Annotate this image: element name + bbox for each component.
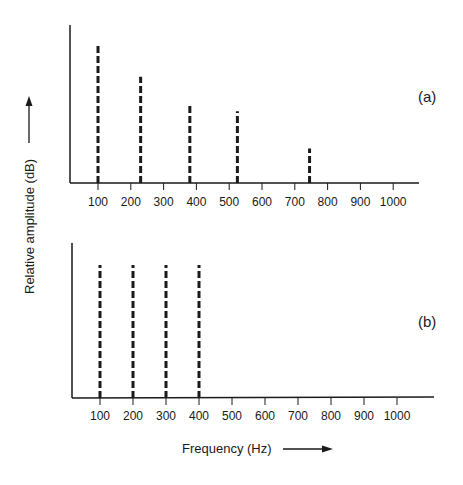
panel-b-x-axis <box>72 397 434 398</box>
panel-a-chart: 1002003004005006007008009001000 (a) <box>70 25 436 209</box>
x-axis-title: Frequency (Hz) <box>182 441 272 456</box>
right-arrow-icon <box>322 446 333 453</box>
x-tick-label: 800 <box>321 409 341 423</box>
panel-b-x-ticks: 1002003004005006007008009001000 <box>90 398 411 423</box>
x-tick-label: 100 <box>90 409 110 423</box>
x-tick-label: 200 <box>123 409 143 423</box>
x-tick-label: 800 <box>318 195 338 209</box>
panel-a-spectral-lines <box>98 45 310 183</box>
panel-b-chart: 1002003004005006007008009001000 (b) <box>72 243 436 423</box>
x-tick-label: 400 <box>189 409 209 423</box>
x-tick-label: 400 <box>186 195 206 209</box>
x-tick-label: 600 <box>252 195 272 209</box>
y-axis-title: Relative amplitude (dB) <box>22 159 37 294</box>
x-tick-label: 1000 <box>384 409 411 423</box>
x-tick-label: 300 <box>154 195 174 209</box>
x-tick-label: 200 <box>121 195 141 209</box>
x-tick-label: 600 <box>255 409 275 423</box>
x-tick-label: 300 <box>156 409 176 423</box>
x-tick-label: 900 <box>350 195 370 209</box>
panel-a-label: (a) <box>418 88 436 105</box>
y-axis-title-group: Relative amplitude (dB) <box>22 96 37 294</box>
panel-b-spectral-lines <box>100 265 199 398</box>
panel-a-x-ticks: 1002003004005006007008009001000 <box>88 183 407 209</box>
x-axis-title-group: Frequency (Hz) <box>182 441 333 456</box>
x-tick-label: 500 <box>222 409 242 423</box>
x-tick-label: 700 <box>288 409 308 423</box>
x-tick-label: 500 <box>219 195 239 209</box>
x-tick-label: 1000 <box>380 195 407 209</box>
spectrum-figure: 1002003004005006007008009001000 (a) 1002… <box>0 0 463 485</box>
x-tick-label: 900 <box>354 409 374 423</box>
x-tick-label: 100 <box>88 195 108 209</box>
up-arrow-icon <box>26 96 33 106</box>
x-tick-label: 700 <box>285 195 305 209</box>
panel-b-label: (b) <box>418 313 436 330</box>
